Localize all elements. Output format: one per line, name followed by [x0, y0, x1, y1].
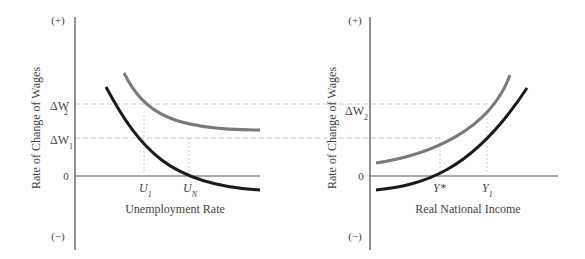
left-y-axis-label: Rate of Change of Wages — [29, 67, 43, 189]
left-x-tick-u1: U1 — [139, 181, 152, 199]
right-panel: (+) (−) 0 ΔW2 Y* Y1 Real National Income… — [325, 14, 558, 250]
left-y-plus: (+) — [51, 14, 65, 27]
right-x-tick-y1: Y1 — [482, 181, 493, 199]
right-y-tick-dw2: ΔW2 — [345, 104, 368, 122]
left-x-tick-un: UN — [183, 181, 198, 199]
left-y-minus: (−) — [51, 230, 65, 243]
phillips-curve-diagram: (+) (−) 0 ΔW 2 ΔW1 U1 UN Unemployment Ra… — [0, 0, 585, 259]
left-y-tick-dw1: ΔW1 — [50, 133, 73, 151]
wage-curve-gray — [376, 75, 510, 163]
right-x-axis-label: Real National Income — [415, 202, 520, 216]
right-y-axis-label: Rate of Change of Wages — [325, 67, 339, 189]
right-y-plus: (+) — [348, 14, 362, 27]
left-x-axis-label: Unemployment Rate — [125, 202, 225, 216]
right-zero-label: 0 — [358, 170, 364, 182]
right-x-tick-ystar: Y* — [433, 181, 446, 195]
left-zero-label: 0 — [63, 170, 69, 182]
right-y-minus: (−) — [348, 230, 362, 243]
left-y-tick-dw2: ΔW 2 — [50, 99, 70, 117]
short-run-phillips-curve-gray — [124, 73, 260, 130]
left-panel: (+) (−) 0 ΔW 2 ΔW1 U1 UN Unemployment Ra… — [29, 14, 260, 250]
